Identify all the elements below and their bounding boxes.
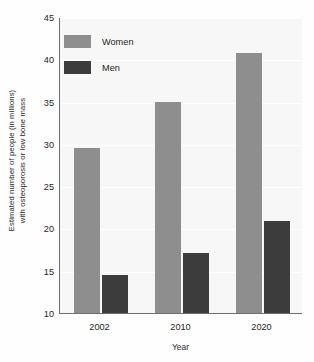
bar-women-2002	[74, 148, 100, 313]
legend-label-men: Men	[102, 63, 120, 73]
bar-chart-figure: Estimated number of people (in millions)…	[0, 0, 314, 362]
bar-women-2010	[155, 102, 181, 313]
legend-item-women: Women	[64, 33, 134, 50]
x-axis-title: Year	[59, 342, 302, 352]
y-axis-tick-label: 45	[28, 13, 54, 23]
y-axis-tick-label: 35	[28, 98, 54, 108]
bar-women-2020	[236, 53, 262, 313]
gridline	[60, 18, 302, 19]
legend-label-women: Women	[102, 37, 134, 47]
bar-men-2002	[102, 275, 128, 313]
legend-swatch-women-icon	[64, 35, 91, 48]
gridline	[60, 145, 302, 146]
legend: Women Men	[64, 33, 134, 85]
y-axis-tick-label: 25	[28, 182, 54, 192]
y-axis-tick-label: 40	[28, 55, 54, 65]
gridline	[60, 103, 302, 104]
bar-men-2020	[264, 221, 290, 313]
bar-men-2010	[183, 253, 209, 313]
y-axis-tick-label: 15	[28, 267, 54, 277]
legend-swatch-men-icon	[64, 61, 91, 74]
x-axis-tick-label: 2010	[170, 322, 190, 332]
x-axis-tick-label: 2020	[251, 322, 271, 332]
y-axis-tick-label: 30	[28, 140, 54, 150]
y-axis-tick-label: 20	[28, 224, 54, 234]
y-axis-tick-label: 10	[28, 309, 54, 319]
x-axis-tick-label: 2002	[89, 322, 109, 332]
legend-item-men: Men	[64, 59, 134, 76]
